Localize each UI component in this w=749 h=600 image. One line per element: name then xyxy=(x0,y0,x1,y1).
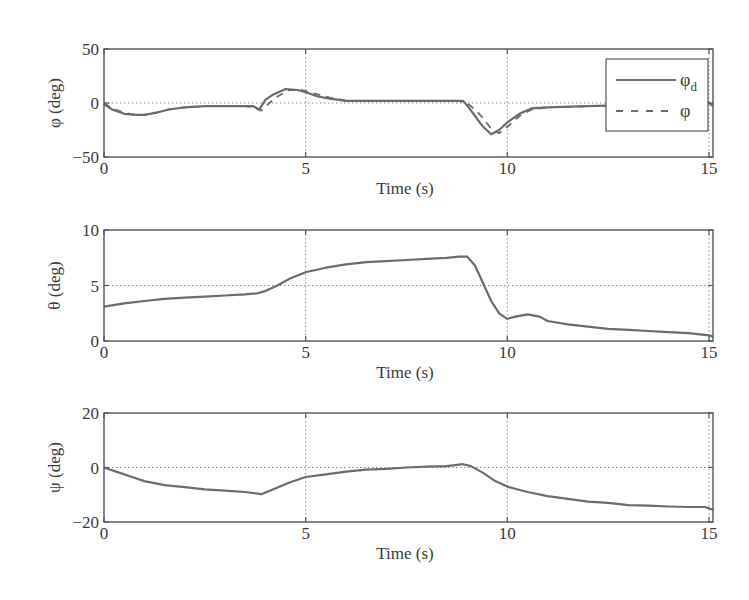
figure-canvas: 051015−50050 Time (s) φ (deg) φdφ 051015… xyxy=(0,0,749,600)
y-tick-label: 0 xyxy=(91,94,100,113)
x-tick-label: 15 xyxy=(700,343,717,362)
psi-plot: 051015−20020 Time (s) ψ (deg) xyxy=(45,404,717,563)
x-axis-label: Time (s) xyxy=(376,544,433,563)
phi-plot: 051015−50050 Time (s) φ (deg) φdφ xyxy=(45,40,717,198)
series-line-desired xyxy=(104,464,713,510)
x-axis-label: Time (s) xyxy=(376,179,433,198)
y-axis-label: θ (deg) xyxy=(45,261,64,309)
x-tick-label: 10 xyxy=(499,343,516,362)
x-axis-label: Time (s) xyxy=(376,363,433,382)
figure: 051015−50050 Time (s) φ (deg) φdφ 051015… xyxy=(0,0,749,600)
x-tick-label: 10 xyxy=(499,159,516,178)
legend-box xyxy=(606,59,708,131)
y-tick-label: 50 xyxy=(82,40,99,59)
x-tick-label: 5 xyxy=(301,159,310,178)
data-curves xyxy=(104,257,713,337)
grid-lines xyxy=(104,230,713,341)
y-tick-label: 0 xyxy=(91,459,100,478)
y-tick-label: 5 xyxy=(91,277,100,296)
y-tick-label: 0 xyxy=(91,332,100,351)
y-axis-label: ψ (deg) xyxy=(45,442,64,493)
series-line-desired xyxy=(104,257,713,337)
x-tick-label: 0 xyxy=(100,524,109,543)
y-tick-label: −20 xyxy=(72,513,99,532)
theta-plot: 0510150510 Time (s) θ (deg) xyxy=(45,221,717,382)
x-tick-label: 5 xyxy=(301,524,310,543)
x-tick-label: 10 xyxy=(499,524,516,543)
data-curves xyxy=(104,464,713,510)
x-tick-label: 15 xyxy=(700,159,717,178)
x-tick-label: 0 xyxy=(100,343,109,362)
y-tick-label: −50 xyxy=(72,148,99,167)
x-tick-label: 5 xyxy=(301,343,310,362)
legend: φdφ xyxy=(606,59,708,131)
x-tick-label: 0 xyxy=(100,159,109,178)
y-tick-label: 20 xyxy=(82,404,99,423)
y-axis-label: φ (deg) xyxy=(45,78,64,128)
y-tick-label: 10 xyxy=(82,221,99,240)
x-tick-label: 15 xyxy=(700,524,717,543)
legend-label: φ xyxy=(680,101,690,121)
